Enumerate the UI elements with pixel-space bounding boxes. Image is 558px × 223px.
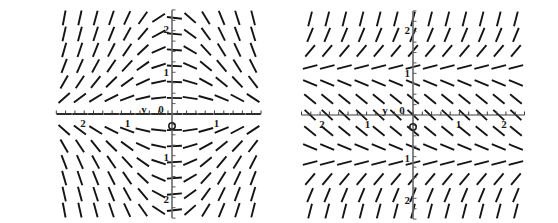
y-axis-symbol-label: y (141, 103, 147, 115)
y-tick-label: 1 (405, 67, 411, 79)
x-tick-label: 1 (365, 118, 371, 130)
y-tick-label: 1 (405, 152, 411, 164)
y-tick-label: 2 (405, 24, 411, 36)
x-tick-label: 2 (501, 118, 507, 130)
x-tick-label: 1 (125, 117, 131, 129)
y-axis-ticks (413, 11, 417, 219)
origin-label: 0 (158, 103, 164, 115)
y-tick-label: 1 (164, 151, 170, 163)
right-slope-field-canvas: 21122112y0 (279, 0, 558, 223)
origin-label: 0 (399, 104, 405, 116)
y-axis-symbol-label: y (382, 104, 388, 116)
slope-field-figure: 2112112y0 21122112y0 (0, 0, 558, 223)
y-tick-label: 2 (405, 194, 411, 206)
x-tick-label: 1 (214, 117, 220, 129)
x-tick-label: 1 (456, 118, 462, 130)
y-tick-label: 2 (164, 193, 170, 205)
x-tick-label: 2 (319, 118, 325, 130)
x-tick-label: 2 (80, 117, 86, 129)
y-tick-label: 1 (164, 66, 170, 78)
left-slope-field-panel: 2112112y0 (0, 0, 279, 223)
right-slope-field-panel: 21122112y0 (279, 0, 558, 223)
left-slope-field-canvas: 2112112y0 (0, 0, 279, 223)
y-axis-ticks (172, 10, 176, 218)
y-tick-label: 2 (164, 23, 170, 35)
